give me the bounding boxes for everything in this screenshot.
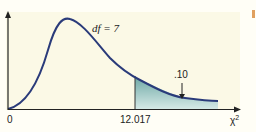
alpha-label: .10 <box>174 69 188 80</box>
df-label: df = 7 <box>92 22 119 34</box>
y-axis-arrow <box>5 11 11 18</box>
origin-label: 0 <box>7 114 13 125</box>
critical-value-label: 12.017 <box>120 114 151 125</box>
x-axis-label: χ2 <box>230 114 239 126</box>
tail-shade <box>135 77 218 109</box>
chi-square-chart: df = 7 .10 0 12.017 χ2 <box>0 0 256 132</box>
x-axis-arrow <box>234 107 241 113</box>
chart-svg <box>0 0 256 132</box>
margin-mark <box>252 10 255 18</box>
superscript: 2 <box>235 114 239 121</box>
